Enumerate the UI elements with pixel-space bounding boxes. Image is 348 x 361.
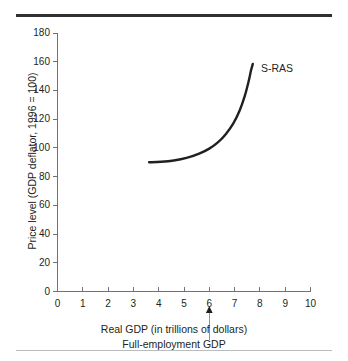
series-label-sras: S-RAS: [261, 62, 293, 74]
y-tick-label: 0: [20, 287, 50, 297]
x-axis-ticks: [58, 287, 311, 292]
y-tick-label: 180: [20, 28, 50, 38]
sras-curve: [149, 64, 253, 162]
y-axis-ticks: [53, 33, 58, 292]
y-axis-title: Price level (GDP deflator, 1996 = 100): [26, 41, 38, 281]
x-axis-title: Real GDP (in trillions of dollars): [0, 323, 348, 335]
full-employment-gdp-caption: Full-employment GDP: [0, 338, 348, 350]
figure: 020406080100120140160180 012345678910 Pr…: [0, 0, 348, 361]
series-group: [149, 64, 253, 162]
x-tick-label: 10: [296, 299, 326, 309]
